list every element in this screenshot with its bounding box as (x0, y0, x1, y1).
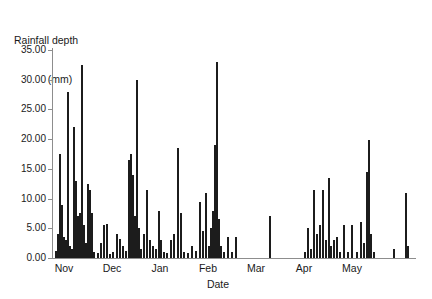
x-axis-label-nov: Nov (44, 262, 84, 274)
bar (231, 252, 233, 258)
bar (173, 234, 175, 258)
x-axis-label-dec: Dec (92, 262, 132, 274)
bar (122, 246, 124, 258)
bar (100, 243, 102, 259)
x-axis-label-may: May (332, 262, 372, 274)
bar (109, 254, 111, 258)
bar (351, 225, 353, 258)
bar (166, 253, 168, 258)
bar (336, 237, 338, 258)
y-axis-label-text: 20.00 (2, 134, 46, 144)
bar (333, 240, 335, 258)
bar (180, 213, 182, 258)
x-axis-label-apr: Apr (284, 262, 324, 274)
y-axis-label-20.00: 20.00 (0, 134, 46, 144)
bar (227, 237, 229, 258)
bar (195, 251, 197, 258)
y-axis-label-text: 35.00 (2, 45, 46, 55)
bar (343, 225, 345, 258)
x-axis-line (52, 258, 416, 259)
bar (152, 246, 154, 258)
bar (307, 228, 309, 258)
bar (170, 240, 172, 258)
bar (330, 246, 332, 258)
x-axis-title: Date (0, 278, 432, 290)
bar (325, 240, 327, 258)
bar (103, 225, 105, 258)
bar (322, 190, 324, 258)
bar (360, 222, 362, 258)
bar (112, 252, 114, 258)
bar (119, 239, 121, 258)
y-axis-label-25.00: 25.00 (0, 104, 46, 114)
bar (149, 240, 151, 258)
bar (269, 216, 271, 258)
y-axis-label-text: 25.00 (2, 104, 46, 114)
bar (191, 246, 193, 258)
bar (304, 252, 306, 258)
bar (393, 249, 395, 258)
bar (163, 252, 165, 258)
bar (373, 252, 375, 258)
bar (356, 252, 358, 258)
bar (140, 249, 142, 258)
y-axis-label-text: 10.00 (2, 194, 46, 204)
plot-area (53, 50, 415, 258)
bar (146, 190, 148, 258)
bar (183, 252, 185, 258)
bar (316, 234, 318, 258)
bar (125, 251, 127, 258)
bar (97, 253, 99, 258)
bar (319, 225, 321, 258)
y-axis-label-5.00: 5.00 (0, 223, 46, 233)
bar (235, 237, 237, 258)
bar (116, 234, 118, 258)
x-axis-label-jan: Jan (140, 262, 180, 274)
bar (93, 252, 95, 258)
y-axis-tick-0.00 (48, 258, 53, 259)
y-axis-label-10.00: 10.00 (0, 194, 46, 204)
y-axis-label-text: 30.00 (2, 75, 46, 85)
bar (370, 234, 372, 258)
bar (310, 249, 312, 258)
y-axis-label-text: 5.00 (2, 223, 46, 233)
bar (347, 252, 349, 258)
bar (223, 252, 225, 258)
bar (407, 246, 409, 258)
bar (363, 243, 365, 258)
bar (106, 224, 108, 259)
bar (202, 231, 204, 258)
bar (160, 240, 162, 258)
x-axis-label-feb: Feb (188, 262, 228, 274)
y-axis-label-35.00: 35.00 (0, 45, 46, 55)
rainfall-bar-chart: Rainfall depth (mm) 0.005.0010.0015.0020… (0, 0, 432, 299)
bar (205, 193, 207, 258)
bar (220, 246, 222, 258)
bar (313, 190, 315, 258)
bar (67, 92, 69, 258)
bar (143, 234, 145, 258)
y-axis-label-0.00: 0.00 (0, 253, 46, 263)
bar (155, 249, 157, 258)
y-axis-label-30.00: 30.00 (0, 75, 46, 85)
y-axis-label-15.00: 15.00 (0, 164, 46, 174)
x-axis-label-mar: Mar (236, 262, 276, 274)
y-axis-label-text: 0.00 (2, 253, 46, 263)
bar (199, 202, 201, 259)
bar (177, 148, 179, 258)
y-axis-label-text: 15.00 (2, 164, 46, 174)
bar (187, 253, 189, 258)
bar (339, 252, 341, 258)
